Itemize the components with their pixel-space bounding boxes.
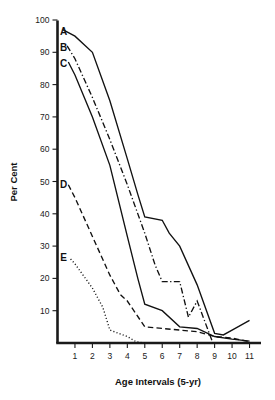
y-tick-label: 40	[40, 209, 50, 219]
x-tick-label: 6	[160, 351, 165, 361]
y-tick-label: 100	[35, 15, 49, 25]
x-tick-label: 2	[90, 351, 95, 361]
y-axis-title: Per Cent	[8, 162, 19, 202]
y-tick-label: 50	[40, 177, 50, 187]
series-line-e	[71, 259, 145, 343]
x-tick-label: 10	[227, 351, 237, 361]
x-tick-label: 7	[177, 351, 182, 361]
x-tick-label: 11	[245, 351, 254, 361]
y-axis: 102030405060708090100	[35, 15, 57, 343]
y-tick-label: 80	[40, 80, 50, 90]
x-tick-label: 9	[212, 351, 217, 361]
series-label-e: E	[60, 252, 67, 263]
x-axis: 1234567891011	[56, 343, 261, 361]
data-series-group	[63, 30, 250, 343]
series-label-c: C	[60, 58, 67, 69]
series-line-d	[68, 185, 249, 342]
series-label-d: D	[60, 179, 67, 190]
series-label-b: B	[60, 42, 67, 53]
x-tick-label: 1	[73, 351, 78, 361]
y-tick-label: 90	[40, 47, 50, 57]
x-axis-title: Age Intervals (5-yr)	[115, 376, 201, 387]
series-labels-group: ABCDE	[60, 26, 67, 263]
x-tick-label: 5	[142, 351, 147, 361]
x-tick-label: 4	[125, 351, 130, 361]
y-tick-label: 20	[40, 273, 50, 283]
y-tick-label: 60	[40, 144, 50, 154]
percent-vs-age-intervals-line-chart: 102030405060708090100 1234567891011 ABCD…	[0, 0, 275, 400]
series-line-a	[63, 30, 250, 335]
y-tick-label: 70	[40, 112, 50, 122]
chart-container: 102030405060708090100 1234567891011 ABCD…	[0, 0, 275, 400]
y-tick-label: 10	[40, 306, 50, 316]
y-tick-label: 30	[40, 241, 50, 251]
series-label-a: A	[60, 26, 67, 37]
x-tick-label: 3	[108, 351, 113, 361]
series-line-b	[67, 46, 213, 343]
x-tick-label: 8	[195, 351, 200, 361]
